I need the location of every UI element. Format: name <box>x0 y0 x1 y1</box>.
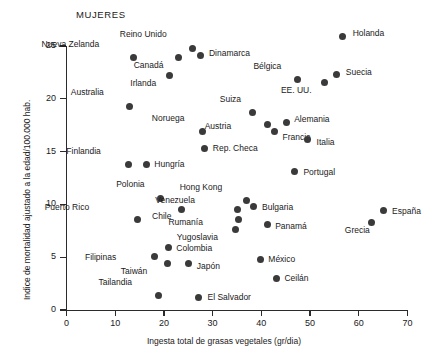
data-point-label: Tailandia <box>99 278 133 287</box>
data-point <box>234 206 241 213</box>
x-tick-mark <box>358 310 359 316</box>
data-point <box>164 260 171 267</box>
data-point-label: Panamá <box>275 222 307 231</box>
data-point-label: Filipinas <box>85 253 116 262</box>
data-point <box>175 54 182 61</box>
data-point-label: Hungría <box>154 160 184 169</box>
data-point <box>195 294 202 301</box>
data-point-label: Suiza <box>220 95 241 104</box>
data-point-label: Hong Kong <box>180 183 223 192</box>
data-point <box>264 221 271 228</box>
data-point-label: Suecia <box>346 68 372 77</box>
data-point-label: Canadá <box>134 61 164 70</box>
x-tick-mark <box>407 310 408 316</box>
data-point <box>249 109 256 116</box>
y-axis-title: Indice de mortalidad ajustado a la edad/… <box>22 100 32 300</box>
data-point-label: Nueva Zelanda <box>42 40 100 49</box>
data-point <box>125 161 132 168</box>
data-point <box>321 79 328 86</box>
x-tick-mark <box>309 310 310 316</box>
y-tick-mark <box>60 151 66 152</box>
data-point-label: Venezuela <box>155 196 195 205</box>
y-axis-line <box>66 46 67 311</box>
data-point <box>201 145 208 152</box>
data-point-label: Yugoslavia <box>177 233 218 242</box>
data-point <box>380 207 387 214</box>
data-point-label: Italia <box>317 138 335 147</box>
x-tick-label: 10 <box>100 318 130 328</box>
data-point-label: Holanda <box>353 29 385 38</box>
data-point-label: EE. UU. <box>281 86 312 95</box>
data-point <box>291 168 298 175</box>
data-point-label: Puerto Rico <box>45 203 89 212</box>
x-tick-mark <box>66 310 67 316</box>
data-point-label: Taiwán <box>121 267 147 276</box>
data-point <box>232 226 239 233</box>
x-tick-label: 70 <box>392 318 422 328</box>
data-point <box>283 119 290 126</box>
data-point-label: Polonia <box>116 180 144 189</box>
data-point <box>273 275 280 282</box>
data-point-label: Reino Unido <box>120 30 167 39</box>
data-point-label: Alemania <box>294 115 329 124</box>
data-point-label: Bélgica <box>253 62 281 71</box>
data-point-label: Ceilán <box>284 274 308 283</box>
data-point-label: Rumanía <box>168 218 203 227</box>
data-point-label: Colombia <box>176 244 212 253</box>
data-point <box>126 103 133 110</box>
data-point <box>185 260 192 267</box>
y-tick-label: 15 <box>28 146 56 156</box>
data-point <box>264 121 271 128</box>
x-axis-line <box>66 310 407 311</box>
data-point <box>243 197 250 204</box>
x-tick-label: 40 <box>246 318 276 328</box>
x-tick-label: 60 <box>344 318 374 328</box>
data-point <box>166 72 173 79</box>
data-point-label: El Salvador <box>207 293 250 302</box>
data-point-label: Noruega <box>152 114 185 123</box>
data-point <box>151 253 158 260</box>
data-point <box>199 128 206 135</box>
data-point <box>339 33 346 40</box>
data-point <box>143 161 150 168</box>
x-tick-label: 30 <box>198 318 228 328</box>
data-point-label: Grecia <box>345 226 370 235</box>
y-tick-mark <box>60 257 66 258</box>
x-tick-mark <box>115 310 116 316</box>
data-point-label: Portugal <box>303 168 335 177</box>
data-point-label: Japón <box>197 262 220 271</box>
data-point <box>189 45 196 52</box>
x-tick-mark <box>212 310 213 316</box>
data-point-label: Dinamarca <box>209 49 250 58</box>
data-point <box>271 128 278 135</box>
data-point-label: Finlandia <box>66 147 101 156</box>
x-tick-label: 0 <box>52 318 82 328</box>
data-point <box>165 244 172 251</box>
data-point-label: Bulgaria <box>262 203 293 212</box>
data-point <box>178 206 185 213</box>
data-point <box>250 203 257 210</box>
data-point <box>235 216 242 223</box>
data-point <box>134 216 141 223</box>
data-point <box>294 76 301 83</box>
data-point <box>197 52 204 59</box>
data-point <box>304 136 311 143</box>
y-tick-label: 5 <box>28 251 56 261</box>
y-tick-label: 20 <box>28 93 56 103</box>
x-tick-mark <box>261 310 262 316</box>
data-point-label: Austria <box>205 122 231 131</box>
data-point-label: Irlanda <box>130 79 156 88</box>
scatter-chart: MUJERES 0510152025 010203040506070 Holan… <box>0 0 448 356</box>
y-tick-mark <box>60 98 66 99</box>
data-point-label: Australia <box>71 88 104 97</box>
data-point <box>257 256 264 263</box>
x-axis-title: Ingesta total de grasas vegetales (gr/di… <box>0 336 448 346</box>
x-tick-label: 20 <box>149 318 179 328</box>
data-point-label: España <box>392 207 421 216</box>
x-tick-label: 50 <box>295 318 325 328</box>
data-point-label: Rep. Checa <box>213 144 258 153</box>
x-tick-mark <box>163 310 164 316</box>
plot-area: 0510152025 010203040506070 HolandaReino … <box>0 0 448 356</box>
y-tick-label: 0 <box>28 304 56 314</box>
data-point <box>333 71 340 78</box>
